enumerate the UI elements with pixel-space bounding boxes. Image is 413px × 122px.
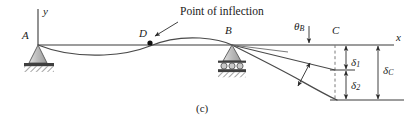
label-support-a: A — [22, 30, 29, 41]
figure-caption: (c) — [196, 103, 208, 114]
label-point-d: D — [139, 28, 147, 39]
support-a-base — [24, 63, 54, 66]
support-b-roller-3 — [237, 63, 243, 69]
tangent-line-at-b — [232, 45, 335, 70]
deflection-curve — [38, 38, 337, 100]
support-b-roller-2 — [229, 63, 235, 69]
point-of-inflection-annotation: Point of inflection — [180, 6, 264, 18]
label-support-b: B — [225, 25, 232, 36]
inflection-leader-line — [155, 22, 178, 36]
label-axis-y: y — [43, 6, 48, 17]
theta-b-subscript: B — [299, 24, 304, 33]
tangent-construction-line — [232, 45, 288, 52]
label-point-c: C — [332, 25, 339, 36]
label-delta-1: δ1 — [351, 57, 360, 69]
label-delta-2: δ2 — [351, 80, 360, 92]
support-b-roller-1 — [221, 63, 227, 69]
support-b-base — [218, 69, 246, 72]
support-b-triangle — [223, 45, 241, 61]
beam-deflection-figure: A y D B C x Point of inflection θB δ1 δ2… — [0, 0, 413, 122]
delta-1-subscript: 1 — [356, 60, 360, 69]
label-delta-c: δC — [383, 65, 393, 77]
label-axis-x: x — [396, 32, 401, 43]
delta-2-subscript: 2 — [356, 83, 360, 92]
support-b-roller-cap — [218, 61, 246, 63]
support-b-ground-hatch — [218, 72, 246, 77]
support-a-ground-hatch — [24, 66, 54, 72]
label-theta-b: θB — [294, 21, 304, 33]
inflection-point-dot — [147, 40, 152, 45]
delta-c-subscript: C — [388, 68, 393, 77]
